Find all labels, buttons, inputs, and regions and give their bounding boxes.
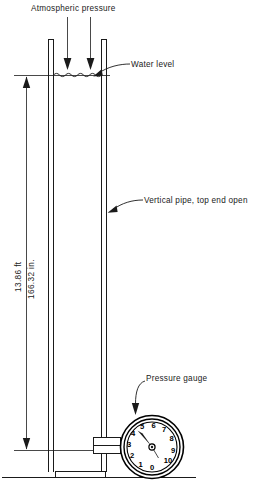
dimension-value-feet: 13.86 ft — [14, 261, 23, 292]
gauge-tick-3: 3 — [127, 440, 131, 449]
dimension-arrow-up — [23, 77, 30, 89]
pressure-diagram-figure: Atmospheric pressure — [0, 0, 280, 496]
arrow-head-vertical-pipe — [108, 206, 118, 213]
gauge-tick-8: 8 — [169, 434, 173, 443]
gauge-tick-6: 6 — [151, 421, 155, 430]
base-plate — [56, 472, 106, 478]
pressure-gauge-label: Pressure gauge — [146, 374, 208, 383]
vertical-pipe-callout — [108, 200, 143, 213]
diagram-canvas: Atmospheric pressure — [0, 0, 280, 496]
pressure-gauge-callout — [132, 381, 145, 415]
dimension-arrow-down — [23, 438, 30, 450]
vertical-pipe-label: Vertical pipe, top end open — [144, 196, 248, 205]
gauge-fitting-block — [94, 438, 121, 454]
gauge-tick-7: 7 — [162, 425, 166, 434]
gauge-tick-9: 9 — [171, 446, 175, 455]
vertical-pipe — [49, 39, 107, 472]
arrow-head-down-right — [87, 58, 95, 70]
gauge-tick-2: 2 — [130, 451, 134, 460]
gauge-tick-0: 0 — [150, 463, 154, 472]
atmospheric-pressure-arrows — [64, 17, 95, 70]
water-level-label: Water level — [131, 60, 174, 69]
water-level-callout — [93, 64, 130, 77]
arrow-head-pressure-gauge — [132, 403, 139, 415]
pressure-gauge: 0 1 2 3 4 5 6 7 8 9 10 — [121, 416, 184, 479]
gauge-tick-10: 10 — [164, 456, 172, 465]
dimension-value-inches: 166.32 in. — [27, 259, 36, 299]
arrow-head-down-left — [64, 58, 72, 70]
atmospheric-pressure-label: Atmospheric pressure — [31, 4, 116, 13]
